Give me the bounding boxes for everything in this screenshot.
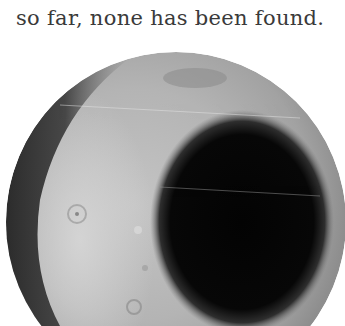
sphere <box>0 52 345 326</box>
planet-image <box>0 0 345 326</box>
